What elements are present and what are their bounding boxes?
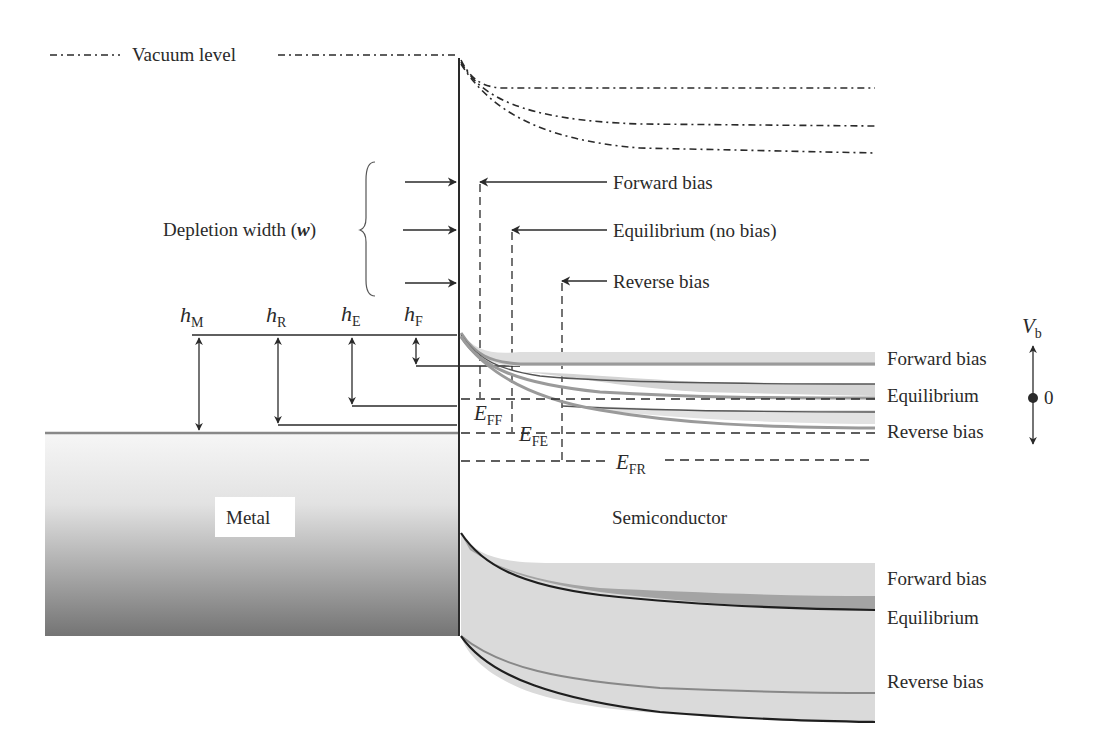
- h-m-label: hM: [180, 302, 204, 330]
- vb-label: Vb: [1022, 314, 1042, 341]
- callout-forward-bias: Forward bias: [613, 172, 713, 193]
- h-f-label: hF: [404, 301, 423, 329]
- depletion-width-label: Depletion width (w): [163, 219, 316, 241]
- metal-region: [45, 433, 459, 636]
- e-fr-label: EFR: [615, 450, 647, 477]
- cb-forward-bias-label: Forward bias: [887, 348, 987, 369]
- e-ff-label: EFF: [473, 401, 503, 428]
- zero-dot-icon: [1028, 393, 1038, 403]
- bias-axis: Vb 0: [1022, 314, 1054, 444]
- cb-reverse-bias-label: Reverse bias: [887, 421, 984, 442]
- depletion-arrows: [403, 182, 456, 283]
- vacuum-level-label: Vacuum level: [132, 44, 236, 65]
- valence-bands: [461, 533, 875, 722]
- e-fe-label: EFE: [518, 422, 548, 449]
- semiconductor-label: Semiconductor: [612, 507, 728, 528]
- depletion-brace: [360, 162, 375, 296]
- metal-label: Metal: [226, 507, 270, 528]
- vb-equilibrium-label: Equilibrium: [887, 607, 979, 628]
- callout-reverse-bias: Reverse bias: [613, 271, 710, 292]
- callout-equilibrium: Equilibrium (no bias): [613, 220, 777, 242]
- conduction-bands: [461, 333, 875, 428]
- vb-reverse-bias-label: Reverse bias: [887, 671, 984, 692]
- h-e-label: hE: [341, 301, 361, 329]
- vb-forward-bias-label: Forward bias: [887, 568, 987, 589]
- band-diagram: Vacuum level Depletion width (w) Forward…: [0, 0, 1097, 752]
- h-r-label: hR: [266, 302, 287, 330]
- vacuum-level: [50, 55, 875, 153]
- cb-equilibrium-label: Equilibrium: [887, 385, 979, 406]
- zero-label: 0: [1044, 387, 1054, 408]
